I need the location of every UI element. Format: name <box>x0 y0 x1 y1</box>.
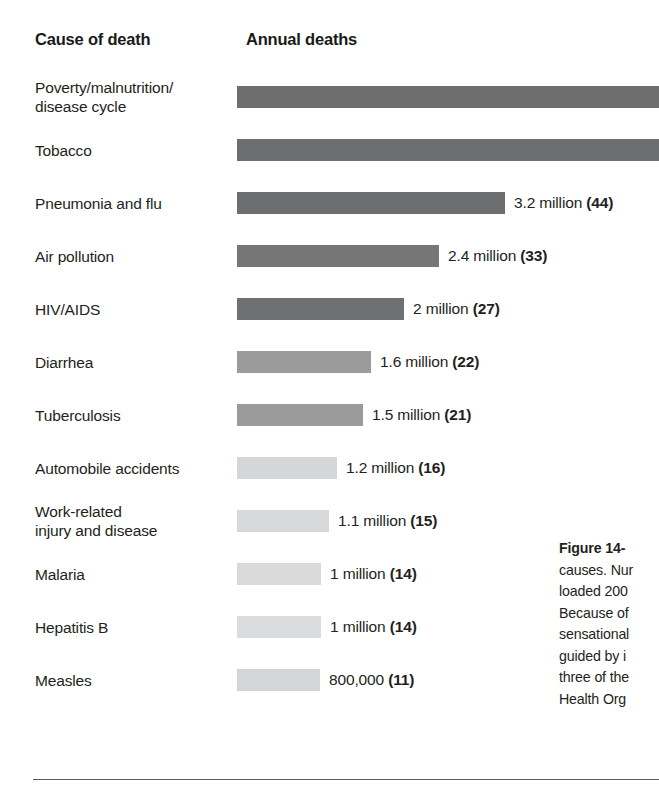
value-rate-index: (22) <box>452 353 479 370</box>
bar <box>237 510 329 532</box>
caption-line: three of the <box>559 669 629 685</box>
bar <box>237 563 321 585</box>
bar <box>237 669 320 691</box>
figure-caption-body: causes. Nurloaded 200Because ofsensation… <box>559 562 633 707</box>
bar <box>237 86 659 108</box>
bar-and-value: 1.5 million (21) <box>237 404 471 426</box>
bar <box>237 616 321 638</box>
bar-and-value <box>237 139 659 161</box>
value-label: 1 million (14) <box>330 565 417 583</box>
chart-row: Poverty/malnutrition/ disease cycle <box>0 70 659 123</box>
category-label: HIV/AIDS <box>35 299 100 318</box>
value-number: 2.4 million <box>448 247 516 264</box>
category-label: Poverty/malnutrition/ disease cycle <box>35 78 173 116</box>
bar-and-value <box>237 86 659 108</box>
bottom-divider <box>33 779 659 780</box>
category-label: Hepatitis B <box>35 617 108 636</box>
caption-line: causes. Nur <box>559 562 633 578</box>
value-rate-index: (14) <box>390 618 417 635</box>
value-label: 2 million (27) <box>413 300 500 318</box>
chart-row: Tuberculosis1.5 million (21) <box>0 388 659 441</box>
value-rate-index: (15) <box>410 512 437 529</box>
value-label: 1.6 million (22) <box>380 353 479 371</box>
bar-and-value: 800,000 (11) <box>237 669 414 691</box>
chart-row: Diarrhea1.6 million (22) <box>0 335 659 388</box>
category-label: Measles <box>35 670 92 689</box>
bar-and-value: 2.4 million (33) <box>237 245 547 267</box>
value-label: 1 million (14) <box>330 618 417 636</box>
category-label: Tobacco <box>35 140 92 159</box>
value-label: 800,000 (11) <box>329 671 414 689</box>
figure-number: Figure 14- <box>559 540 625 556</box>
category-label: Diarrhea <box>35 352 93 371</box>
value-number: 3.2 million <box>514 194 582 211</box>
category-label: Pneumonia and flu <box>35 193 162 212</box>
bar <box>237 351 371 373</box>
value-rate-index: (33) <box>520 247 547 264</box>
category-label: Work-related injury and disease <box>35 502 157 540</box>
value-number: 1 million <box>330 618 386 635</box>
value-number: 1.5 million <box>372 406 440 423</box>
chart-row: Automobile accidents1.2 million (16) <box>0 441 659 494</box>
value-rate-index: (11) <box>388 671 414 688</box>
column-header-cause-of-death: Cause of death <box>35 30 150 49</box>
figure-caption: Figure 14-causes. Nurloaded 200Because o… <box>559 538 659 710</box>
category-label: Tuberculosis <box>35 405 121 424</box>
caption-line: Health Org <box>559 691 626 707</box>
value-number: 1.2 million <box>346 459 414 476</box>
bar-and-value: 2 million (27) <box>237 298 500 320</box>
value-rate-index: (44) <box>586 194 613 211</box>
value-label: 3.2 million (44) <box>514 194 613 212</box>
category-label: Automobile accidents <box>35 458 179 477</box>
value-number: 800,000 <box>329 671 384 688</box>
value-rate-index: (16) <box>418 459 445 476</box>
value-label: 2.4 million (33) <box>448 247 547 265</box>
value-rate-index: (27) <box>473 300 500 317</box>
bar <box>237 457 337 479</box>
caption-line: guided by i <box>559 648 626 664</box>
caption-line: sensational <box>559 626 629 642</box>
bar-and-value: 1.2 million (16) <box>237 457 445 479</box>
bar-and-value: 1 million (14) <box>237 563 417 585</box>
value-label: 1.5 million (21) <box>372 406 471 424</box>
caption-line: loaded 200 <box>559 583 628 599</box>
value-label: 1.2 million (16) <box>346 459 445 477</box>
bar-and-value: 1.1 million (15) <box>237 510 437 532</box>
value-number: 2 million <box>413 300 469 317</box>
bar-and-value: 3.2 million (44) <box>237 192 613 214</box>
caption-line: Because of <box>559 605 629 621</box>
category-label: Air pollution <box>35 246 114 265</box>
value-rate-index: (14) <box>390 565 417 582</box>
value-number: 1 million <box>330 565 386 582</box>
bar-and-value: 1.6 million (22) <box>237 351 479 373</box>
chart-row: Air pollution2.4 million (33) <box>0 229 659 282</box>
bar <box>237 245 439 267</box>
bar-and-value: 1 million (14) <box>237 616 417 638</box>
column-header-annual-deaths: Annual deaths <box>246 30 357 49</box>
value-number: 1.6 million <box>380 353 448 370</box>
bar <box>237 404 363 426</box>
chart-row: Pneumonia and flu3.2 million (44) <box>0 176 659 229</box>
value-label: 1.1 million (15) <box>338 512 437 530</box>
bar <box>237 139 659 161</box>
chart-row: Tobacco <box>0 123 659 176</box>
chart-row: HIV/AIDS2 million (27) <box>0 282 659 335</box>
bar <box>237 298 404 320</box>
value-rate-index: (21) <box>444 406 471 423</box>
value-number: 1.1 million <box>338 512 406 529</box>
figure-page: Cause of death Annual deaths Poverty/mal… <box>0 0 659 789</box>
bar <box>237 192 505 214</box>
category-label: Malaria <box>35 564 85 583</box>
